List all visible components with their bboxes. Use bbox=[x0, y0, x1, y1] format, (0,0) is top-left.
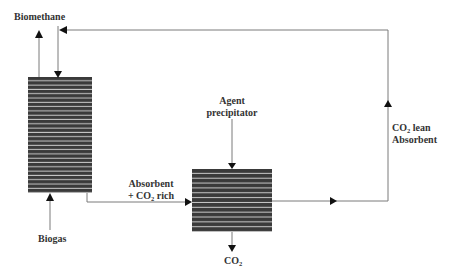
arrow-down-icon bbox=[228, 163, 236, 169]
lean-prefix: CO bbox=[392, 122, 407, 133]
absorbent-rich-line1: Absorbent bbox=[118, 178, 184, 190]
arrow-up-icon bbox=[384, 100, 392, 107]
arrow-down-icon bbox=[228, 245, 236, 252]
co2-prefix: CO bbox=[224, 255, 239, 266]
co2-lean-absorbent-label: CO2 lean Absorbent bbox=[392, 122, 437, 146]
arrow-right-icon bbox=[330, 197, 337, 205]
arrow-down-icon bbox=[54, 71, 62, 78]
co2-sub: 2 bbox=[239, 260, 242, 267]
lean-suffix: lean bbox=[410, 122, 430, 133]
absorbent-rich-label: Absorbent + CO2 rich bbox=[118, 178, 184, 202]
agent-line2: precipitator bbox=[197, 107, 267, 119]
agent-line1: Agent bbox=[197, 95, 267, 107]
precipitator-column bbox=[192, 169, 272, 232]
absorbent-rich-suffix: rich bbox=[154, 190, 174, 201]
lean-line1: CO2 lean bbox=[392, 122, 437, 134]
absorber-column bbox=[28, 77, 92, 193]
arrow-left-icon bbox=[59, 26, 67, 34]
absorbent-rich-prefix: + CO bbox=[128, 190, 151, 201]
biomethane-label: Biomethane bbox=[14, 11, 65, 23]
agent-precipitator-label: Agent precipitator bbox=[197, 95, 267, 119]
absorbent-rich-line2: + CO2 rich bbox=[118, 190, 184, 202]
lean-line2: Absorbent bbox=[392, 134, 437, 146]
process-flow-diagram bbox=[0, 0, 450, 280]
arrow-up-icon bbox=[46, 193, 54, 201]
biogas-label: Biogas bbox=[38, 233, 66, 245]
co2-output-label: CO2 bbox=[224, 255, 242, 267]
arrow-up-icon bbox=[35, 30, 43, 38]
arrow-right-icon bbox=[185, 198, 192, 206]
